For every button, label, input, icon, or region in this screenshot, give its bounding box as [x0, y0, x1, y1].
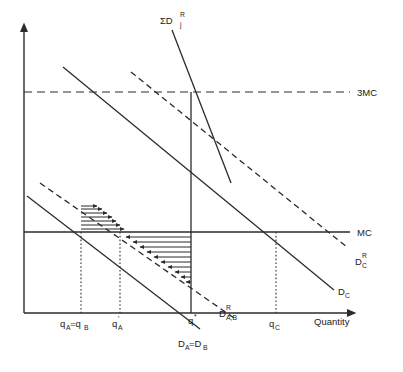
dab-r-label-sup: R [226, 304, 231, 311]
dc-r-curve [131, 72, 348, 248]
sum-dj-r-label-sup: R [180, 11, 185, 18]
q-a-prime-base: q [112, 318, 117, 329]
q-c-base: q [269, 318, 274, 329]
da-db-label-eq: =D [189, 338, 202, 349]
dc-r-label-sup: R [362, 252, 367, 259]
dc-r-label: D C R [355, 252, 367, 269]
dab-r-label-sub: A,B [226, 314, 237, 321]
dc-label-base: D [338, 286, 345, 297]
da-db-label-sub2: B [203, 344, 208, 351]
q-a-prime-sub: A [118, 324, 123, 331]
three-mc-label-text: 3MC [357, 87, 377, 98]
q-a-q-b-base: q [60, 318, 65, 329]
mc-label: MC [357, 227, 372, 238]
da-db-label: D A =D B [178, 338, 208, 351]
dc-label: D C [338, 286, 350, 299]
x-tick-q-a-q-b: q A =q B [60, 318, 89, 331]
demand-curves-group [27, 30, 348, 329]
sum-dj-r-label: ΣD j R [160, 11, 185, 29]
three-mc-label: 3MC [357, 87, 377, 98]
dab-r-curve [40, 183, 234, 318]
sum-dj-r-label-base: ΣD [160, 15, 173, 26]
sum-dj-r-label-sub: j [179, 21, 182, 29]
q-a-q-b-eq: =q [70, 318, 81, 329]
dab-r-label-base: D [219, 308, 226, 319]
x-tick-q-star: q * [188, 313, 197, 326]
x-tick-q-c: q C [269, 318, 280, 331]
diagram-canvas: ΣD j R 3MC MC D C R D C D A,B R [0, 0, 403, 372]
axes-group [24, 31, 348, 313]
quantity-axis-label: Quantity [314, 316, 350, 327]
dc-label-sub: C [345, 292, 350, 299]
x-tick-q-a-prime: q ′ A [112, 315, 123, 331]
large-welfare-triangle-hatching [126, 237, 191, 282]
q-a-q-b-sub2: B [84, 324, 89, 331]
q-a-prime-mark: ′ [118, 315, 120, 322]
dc-r-label-sub: C [362, 262, 367, 269]
sum-dj-r-curve [172, 30, 231, 183]
economics-diagram-figure: ΣD j R 3MC MC D C R D C D A,B R [0, 0, 403, 372]
cost-lines-group [24, 92, 350, 232]
q-star-base: q [188, 315, 193, 326]
dc-r-label-base: D [355, 256, 362, 267]
mc-label-text: MC [357, 227, 372, 238]
da-db-label-base: D [178, 338, 185, 349]
small-welfare-triangle-hatching [81, 206, 124, 229]
q-star-sup: * [194, 313, 197, 320]
quantity-axis-label-text: Quantity [314, 316, 350, 327]
q-c-sub: C [275, 324, 280, 331]
